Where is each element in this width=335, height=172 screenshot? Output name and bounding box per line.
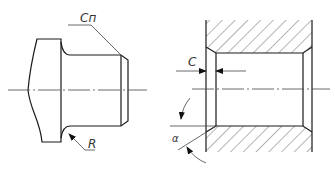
angle-arc-upper [181, 98, 190, 119]
lower-wall-hatch [206, 126, 312, 152]
chamfer-label: Cп [80, 11, 96, 25]
chamfer-leader [68, 25, 123, 57]
upper-wall-hatch [206, 20, 312, 53]
angle-label: α [172, 133, 179, 144]
shaft-figure: Cп R [8, 11, 147, 151]
drawing-canvas: Cп R C α [0, 0, 335, 172]
bore-figure: C α [170, 20, 330, 163]
radius-label: R [88, 137, 96, 151]
c-label: C [188, 55, 197, 69]
flange-outline [28, 39, 61, 142]
angle-arc-lower [187, 147, 206, 163]
